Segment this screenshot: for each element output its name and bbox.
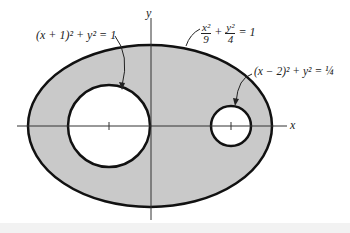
bottom-strip (0, 223, 350, 233)
ellipse-pointer (186, 29, 200, 46)
ellipse-equation: x²9 + y²4 = 1 (201, 22, 256, 45)
y-axis-label: y (146, 6, 151, 21)
x-axis-label: x (290, 118, 295, 133)
big-circle-equation: (x + 1)² + y² = 1 (36, 28, 116, 43)
small-circle-equation: (x − 2)² + y² = ¼ (254, 65, 334, 77)
